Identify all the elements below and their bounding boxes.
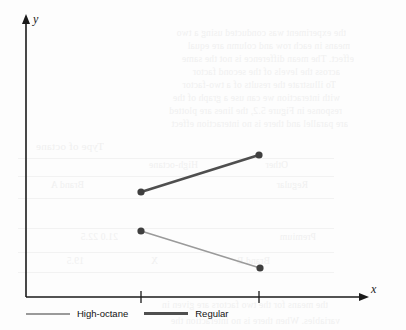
legend-entry-regular: Regular <box>144 308 228 319</box>
series-regular-line <box>141 155 259 192</box>
legend-label-high-octane: High-octane <box>77 308 128 319</box>
legend-label-regular: Regular <box>195 308 228 319</box>
series-high-octane-point <box>256 264 263 271</box>
interaction-plot-figure: the experiment was conducted using a two… <box>0 0 406 330</box>
legend-entry-high-octane: High-octane <box>26 308 128 319</box>
series-high-octane <box>137 227 263 271</box>
x-axis-arrowhead <box>359 293 369 301</box>
series-regular <box>137 151 262 195</box>
chart-legend: High-octane Regular <box>26 308 229 319</box>
series-high-octane-point <box>137 227 144 234</box>
y-axis-arrowhead <box>22 14 30 24</box>
series-regular-point <box>255 151 262 158</box>
y-axis <box>22 14 30 297</box>
y-axis-label: y <box>33 12 38 27</box>
legend-swatch-regular <box>144 312 188 315</box>
series-high-octane-line <box>141 231 260 268</box>
x-axis <box>26 291 369 303</box>
series-regular-point <box>137 188 144 195</box>
x-axis-label: x <box>371 282 376 297</box>
chart-canvas <box>0 0 406 330</box>
legend-swatch-high-octane <box>26 313 70 315</box>
